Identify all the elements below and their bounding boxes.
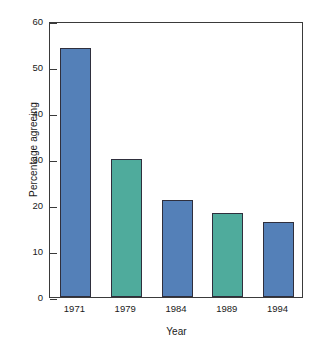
plot-area <box>49 22 303 298</box>
y-axis-tick <box>50 207 57 208</box>
x-axis-tick-label: 1989 <box>202 303 252 314</box>
x-axis-tick-label: 1971 <box>49 303 99 314</box>
bar <box>111 159 142 297</box>
y-axis-tick-label: 50 <box>3 62 43 73</box>
y-axis-tick <box>50 69 57 70</box>
y-axis-tick-label: 30 <box>3 154 43 165</box>
bar <box>212 213 243 297</box>
x-axis-title: Year <box>49 326 304 337</box>
x-axis-tick-label: 1984 <box>151 303 201 314</box>
bar <box>162 200 193 297</box>
x-axis-tick-label: 1979 <box>100 303 150 314</box>
y-axis-tick <box>50 299 57 300</box>
y-axis-tick <box>50 253 57 254</box>
y-axis-tick-label: 40 <box>3 108 43 119</box>
bar <box>60 48 91 297</box>
y-axis-tick-label: 10 <box>3 246 43 257</box>
y-axis-tick <box>50 161 57 162</box>
bar <box>263 222 294 297</box>
x-axis-tick-label: 1994 <box>253 303 303 314</box>
y-axis-tick-label: 60 <box>3 16 43 27</box>
y-axis-tick <box>50 23 57 24</box>
y-axis-tick-label: 20 <box>3 200 43 211</box>
bar-chart-figure: Percentage agreeing 0102030405060 197119… <box>0 0 319 350</box>
y-axis-tick-label: 0 <box>3 292 43 303</box>
y-axis-tick <box>50 115 57 116</box>
